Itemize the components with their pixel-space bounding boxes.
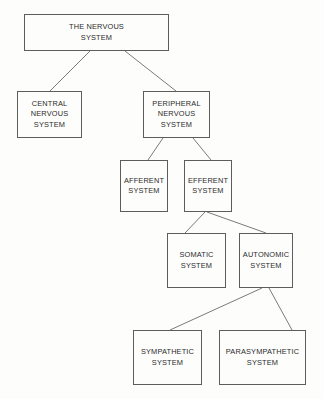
- node-label-efferent-system: EFFERENTSYSTEM: [188, 176, 228, 197]
- edge-efferent-to-somatic: [185, 212, 205, 233]
- edge-root-to-central: [50, 51, 90, 91]
- node-peripheral-nervous[interactable]: PERIPHERALNERVOUSSYSTEM: [143, 91, 210, 138]
- node-the-nervous-system[interactable]: THE NERVOUSSYSTEM: [24, 14, 169, 51]
- node-parasympathetic-system[interactable]: PARASYMPATHETICSYSTEM: [219, 330, 306, 385]
- node-label-sympathetic-system: SYMPATHETICSYSTEM: [141, 347, 194, 368]
- node-somatic-system[interactable]: SOMATICSYSTEM: [167, 233, 226, 288]
- node-sympathetic-system[interactable]: SYMPATHETICSYSTEM: [133, 330, 202, 385]
- edge-peripheral-to-afferent: [148, 138, 163, 160]
- edge-root-to-peripheral: [125, 51, 176, 91]
- node-label-parasympathetic-system: PARASYMPATHETICSYSTEM: [226, 347, 299, 368]
- nervous-system-diagram: THE NERVOUSSYSTEMCENTRALNERVOUSSYSTEMPER…: [0, 0, 324, 399]
- node-label-somatic-system: SOMATICSYSTEM: [179, 250, 213, 271]
- node-label-peripheral-nervous: PERIPHERALNERVOUSSYSTEM: [152, 99, 200, 131]
- node-afferent-system[interactable]: AFFERENTSYSTEM: [120, 160, 168, 212]
- edge-autonomic-to-parasympathetic: [269, 288, 292, 330]
- node-label-the-nervous-system: THE NERVOUSSYSTEM: [69, 22, 124, 43]
- edge-autonomic-to-sympathetic: [170, 288, 262, 330]
- node-label-afferent-system: AFFERENTSYSTEM: [124, 176, 164, 197]
- edge-peripheral-to-efferent: [193, 138, 211, 160]
- node-autonomic-system[interactable]: AUTONOMICSYSTEM: [239, 233, 293, 288]
- edge-efferent-to-autonomic: [207, 212, 266, 233]
- node-efferent-system[interactable]: EFFERENTSYSTEM: [184, 160, 232, 212]
- node-label-autonomic-system: AUTONOMICSYSTEM: [243, 250, 289, 271]
- node-label-central-nervous: CENTRALNERVOUSSYSTEM: [31, 99, 68, 131]
- node-central-nervous[interactable]: CENTRALNERVOUSSYSTEM: [17, 91, 82, 138]
